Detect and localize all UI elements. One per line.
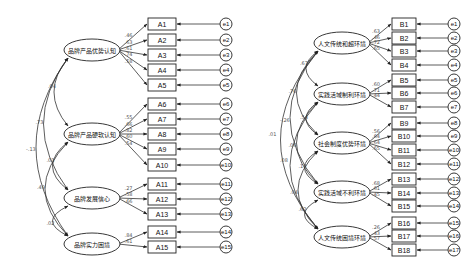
error-term-label: e13: [221, 211, 232, 217]
error-term-label: e9: [451, 133, 458, 139]
indicator-a11: A11e11: [148, 178, 232, 190]
indicator-a15: A15e15: [148, 241, 232, 253]
indicator-b18: B18e17: [392, 244, 460, 256]
loading-value: .58: [125, 58, 133, 64]
indicator-label: B9: [400, 120, 409, 127]
latent-label: 实践活域不利环境: [318, 189, 366, 197]
left-sem-model: A1e1A2e2A3e3A4e4A5e5A6e6A7e7A8e8A9e9A10e…: [26, 18, 232, 255]
error-term-label: e9: [223, 146, 230, 152]
error-term-label: e13: [449, 190, 460, 196]
indicator-b7: B7e7: [392, 101, 460, 113]
indicator-b14: B14e13: [392, 187, 460, 199]
covariance-value: .04: [290, 189, 298, 195]
loading-value: .65: [372, 145, 380, 151]
indicator-b4: B4e4: [392, 59, 460, 71]
covariance-value: .01: [269, 131, 277, 137]
indicator-label: B2: [400, 35, 409, 42]
error-term-label: e3: [223, 52, 230, 58]
error-term-label: e6: [223, 101, 230, 107]
error-term-label: e11: [221, 181, 231, 187]
covariance-path: [306, 51, 318, 86]
indicator-label: A9: [158, 146, 167, 153]
covariance-path: [53, 206, 69, 236]
error-term-label: e10: [449, 147, 460, 153]
loading-value: .46: [125, 32, 133, 38]
indicator-b9: B9e8: [392, 117, 460, 129]
error-term-label: e14: [449, 203, 460, 209]
indicator-a5: A5e5: [148, 79, 232, 91]
indicator-a14: A14e14: [148, 226, 232, 238]
latent-label: 人文传统和超环境: [318, 40, 366, 48]
indicator-b1: B1e1: [392, 18, 460, 30]
loading-value: .82: [125, 127, 133, 133]
indicator-label: B5: [400, 77, 409, 84]
covariance-value: .02: [47, 220, 55, 226]
latent-label: 品牌发展信心: [74, 195, 110, 203]
indicator-b3: B3e3: [392, 45, 460, 57]
indicator-a4: A4e4: [148, 64, 232, 76]
covariance-value: -.13: [26, 146, 36, 152]
error-term-label: e5: [451, 77, 458, 83]
indicator-label: B11: [398, 147, 410, 154]
latent-la2: .55.66.82.60.54品牌产品硬软认知: [64, 104, 147, 165]
covariance-path: [53, 142, 69, 190]
indicator-a6: A6e6: [148, 98, 232, 110]
loading-value: .61: [125, 45, 133, 51]
indicator-a13: A13e13: [148, 208, 232, 220]
error-term-label: e14: [221, 229, 232, 235]
indicator-label: A15: [156, 244, 169, 251]
covariance-path: [305, 151, 319, 184]
indicator-a8: A8e8: [148, 128, 232, 140]
indicator-b11: B11e10: [392, 144, 460, 156]
covariance-value: .13: [299, 163, 307, 169]
indicator-label: B10: [398, 133, 411, 140]
indicator-label: A6: [158, 101, 167, 108]
latent-lb4: .68.61.45实践活域不利环境: [314, 179, 391, 206]
covariance-value: .08: [280, 157, 288, 163]
indicator-b17: B17e16: [392, 230, 460, 242]
indicator-a10: A10e10: [148, 159, 232, 171]
error-term-label: e4: [451, 62, 458, 68]
indicator-label: B17: [398, 233, 411, 240]
error-term-label: e16: [449, 233, 460, 239]
indicator-a9: A9e9: [148, 143, 232, 155]
indicator-a3: A3e3: [148, 49, 232, 61]
indicator-label: B13: [398, 176, 411, 183]
loading-value: .44: [372, 92, 380, 98]
loading-value: .65: [372, 45, 380, 51]
loading-value: .45: [372, 191, 380, 197]
error-term-label: e10: [221, 162, 232, 168]
indicator-label: B6: [400, 90, 409, 97]
indicator-label: B3: [400, 48, 409, 55]
indicator-b6: B6e6: [392, 87, 460, 99]
indicator-b16: B16e15: [392, 217, 460, 229]
error-term-label: e2: [223, 37, 230, 43]
indicator-b2: B2e2: [392, 32, 460, 44]
indicator-label: B15: [398, 203, 411, 210]
right-sem-model: B1e1B2e2B3e3B4e4B5e5B6e6B7e7B9e8B10e9B11…: [269, 18, 461, 256]
loading-value: .63: [125, 39, 133, 45]
loading-value: .60: [125, 133, 133, 139]
latent-lb2: .60.71.44实践活域制利环境: [314, 80, 391, 107]
latent-label: 品牌产品硬软认知: [68, 131, 116, 139]
loading-path: [118, 244, 147, 247]
error-term-label: e1: [451, 21, 458, 27]
latent-label: 人文传统困境环境: [318, 234, 366, 242]
indicator-a2: A2e2: [148, 34, 232, 46]
indicator-label: A13: [156, 211, 169, 218]
indicator-label: A11: [156, 181, 168, 188]
indicator-a12: A12e12: [148, 193, 232, 205]
loading-value: .84: [125, 232, 133, 238]
error-term-label: e12: [221, 196, 232, 202]
error-term-label: e17: [449, 247, 460, 253]
error-term-label: e11: [449, 161, 459, 167]
indicator-label: B16: [398, 220, 411, 227]
loading-value: .54: [125, 140, 133, 146]
indicator-label: A7: [158, 116, 167, 123]
latent-label: 实践活域制利环境: [318, 91, 366, 99]
loading-value: .66: [125, 198, 133, 204]
loading-value: .61: [125, 238, 133, 244]
error-term-label: e15: [449, 220, 460, 226]
latent-label: 品牌实力困境: [74, 241, 110, 249]
indicator-label: A12: [156, 196, 169, 203]
